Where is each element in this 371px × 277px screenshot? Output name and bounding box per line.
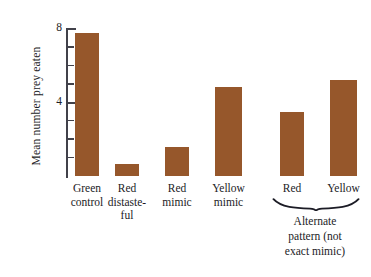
x-category-label-line-2: mimic (196, 196, 262, 210)
y-tick-3 (66, 120, 74, 122)
bar (280, 112, 304, 176)
curly-brace-icon (272, 198, 360, 211)
bar (115, 164, 139, 176)
bar (330, 80, 357, 176)
y-tick-5 (66, 83, 74, 85)
y-tick-2 (66, 138, 74, 140)
group-caption-line-2: pattern (not (256, 229, 371, 244)
group-caption-line-3: exact mimic) (256, 244, 371, 259)
bar (215, 87, 242, 176)
bar-chart: Mean number prey eaten 8 4 GreencontrolR… (0, 0, 371, 277)
group-caption: Alternate pattern (not exact mimic) (256, 214, 371, 259)
axis-baseline-cap (66, 176, 68, 178)
y-tick-label-4: 4 (38, 95, 62, 107)
x-category-label: Yellowmimic (196, 182, 262, 209)
y-tick-8 (66, 28, 76, 30)
y-tick-1 (66, 157, 74, 159)
group-caption-line-1: Alternate (256, 214, 371, 229)
y-tick-6 (66, 65, 74, 67)
x-category-label: Yellow (311, 182, 371, 196)
bar (75, 33, 99, 176)
x-category-label-line-3: ful (94, 209, 160, 223)
x-category-label-line-1: Yellow (196, 182, 262, 196)
y-tick-7 (66, 46, 74, 48)
x-category-label-line-1: Yellow (311, 182, 371, 196)
y-tick-label-8: 8 (38, 21, 62, 33)
bar (165, 147, 189, 176)
